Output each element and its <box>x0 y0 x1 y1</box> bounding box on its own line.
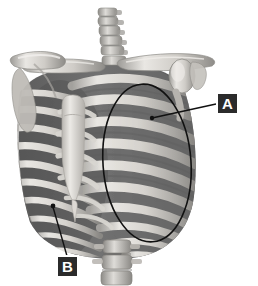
marker-label-a-text: A <box>222 96 233 111</box>
rib-cage-illustration <box>0 0 258 286</box>
marker-label-a[interactable]: A <box>216 92 239 115</box>
marker-label-b[interactable]: B <box>56 255 79 278</box>
marker-label-b-text: B <box>62 259 73 274</box>
anatomy-figure: A B <box>0 0 258 286</box>
lumbar-vertebrae <box>92 240 142 285</box>
cervical-vertebrae <box>98 8 128 65</box>
leader-dot-a <box>150 116 154 120</box>
leader-dot-b <box>51 204 56 209</box>
